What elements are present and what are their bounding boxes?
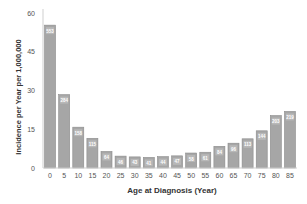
x-tick-label: 70 xyxy=(244,172,252,179)
bar-value-label: 43 xyxy=(132,160,138,165)
chart-canvas: 015304560 553284158115644643414447586184… xyxy=(0,0,307,204)
y-tick-label: 30 xyxy=(27,87,35,94)
bar-20: 64 xyxy=(101,151,112,168)
bar-value-label: 553 xyxy=(46,29,54,34)
x-tick-label: 40 xyxy=(159,172,167,179)
bar-15: 115 xyxy=(87,138,98,168)
bar-rect xyxy=(59,95,70,168)
bar-value-label: 41 xyxy=(146,161,152,166)
bar-value-label: 58 xyxy=(189,157,195,162)
x-axis-label: Age at Diagnosis (Year) xyxy=(127,186,217,195)
bar-65: 96 xyxy=(228,143,239,168)
bar-0: 553 xyxy=(45,25,56,168)
bar-55: 61 xyxy=(200,152,211,168)
y-tick-label: 60 xyxy=(27,10,35,17)
incidence-by-age-chart: 015304560 553284158115644643414447586184… xyxy=(0,0,307,204)
bar-value-label: 96 xyxy=(231,147,237,152)
y-axis: 015304560 xyxy=(27,9,43,172)
bar-value-label: 84 xyxy=(217,150,223,155)
x-tick-label: 35 xyxy=(145,172,153,179)
x-tick-label: 15 xyxy=(88,172,96,179)
x-tick-label: 25 xyxy=(117,172,125,179)
bar-50: 58 xyxy=(186,153,197,168)
bar-80: 203 xyxy=(270,116,281,168)
bar-30: 43 xyxy=(129,157,140,168)
y-axis-label: Incidence per Year per 1,000,000 xyxy=(14,39,23,154)
bar-value-label: 219 xyxy=(286,115,294,120)
bar-rect xyxy=(45,25,56,168)
y-tick-label: 0 xyxy=(31,165,35,172)
bar-85: 219 xyxy=(284,111,295,168)
bar-value-label: 203 xyxy=(272,119,280,124)
bars: 5532841581156446434144475861849611314420… xyxy=(45,25,296,168)
bar-value-label: 158 xyxy=(75,131,83,136)
x-tick-label: 60 xyxy=(215,172,223,179)
bar-value-label: 64 xyxy=(104,155,110,160)
x-tick-label: 65 xyxy=(230,172,238,179)
bar-value-label: 61 xyxy=(203,156,209,161)
bar-70: 113 xyxy=(242,139,253,168)
x-tick-label: 30 xyxy=(131,172,139,179)
bar-10: 158 xyxy=(73,127,84,168)
bar-40: 44 xyxy=(157,157,168,168)
x-tick-label: 55 xyxy=(201,172,209,179)
bar-5: 284 xyxy=(59,95,70,168)
y-tick-label: 15 xyxy=(27,126,35,133)
bar-60: 84 xyxy=(214,146,225,168)
x-tick-label: 0 xyxy=(48,172,52,179)
x-tick-label: 80 xyxy=(272,172,280,179)
bar-value-label: 44 xyxy=(160,160,166,165)
x-tick-label: 75 xyxy=(258,172,266,179)
bar-value-label: 115 xyxy=(89,142,97,147)
x-tick-label: 85 xyxy=(286,172,294,179)
y-tick-label: 45 xyxy=(27,48,35,55)
x-tick-label: 20 xyxy=(103,172,111,179)
bar-75: 144 xyxy=(256,131,267,168)
bar-value-label: 144 xyxy=(258,134,266,139)
bar-45: 47 xyxy=(172,156,183,168)
bar-value-label: 284 xyxy=(60,98,68,103)
bar-35: 41 xyxy=(143,157,154,168)
x-tick-label: 5 xyxy=(62,172,66,179)
x-tick-label: 10 xyxy=(74,172,82,179)
bar-25: 46 xyxy=(115,156,126,168)
bar-value-label: 47 xyxy=(175,159,181,164)
x-tick-label: 45 xyxy=(173,172,181,179)
x-axis: 0510152025303540455055606570758085 xyxy=(43,168,297,179)
x-tick-label: 50 xyxy=(187,172,195,179)
bar-value-label: 46 xyxy=(118,160,124,165)
bar-value-label: 113 xyxy=(244,142,252,147)
